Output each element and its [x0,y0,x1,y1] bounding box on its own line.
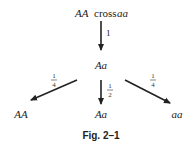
ratio-Aa: 1 2 [107,82,113,99]
genetic-cross-diagram: AA cross aa 1 Aa 1 4 1 2 1 4 AA Aa aa Fi… [0,0,196,151]
ratio-Aa-denominator: 2 [108,91,112,99]
ratio-AA-denominator: 4 [52,81,56,89]
offspring-AA: AA [13,108,28,120]
cross-arrow-label: 1 [106,28,111,38]
offspring-aa: aa [172,108,184,120]
parent-right-genotype: aa [117,7,129,19]
ratio-aa-denominator: 4 [151,81,155,89]
ratio-Aa-numerator: 1 [108,82,112,90]
arrow-to-aa [125,80,170,103]
offspring-Aa: Aa [94,108,108,120]
ratio-aa-numerator: 1 [151,72,155,80]
cross-operator: cross [94,7,117,19]
parent-left-genotype: AA [74,7,89,19]
figure-caption: Fig. 2–1 [82,130,120,141]
parent-cross: AA cross aa [74,7,129,19]
ratio-AA-numerator: 1 [52,72,56,80]
f1-genotype: Aa [94,59,108,71]
ratio-aa: 1 4 [150,72,156,89]
ratio-AA: 1 4 [51,72,57,89]
